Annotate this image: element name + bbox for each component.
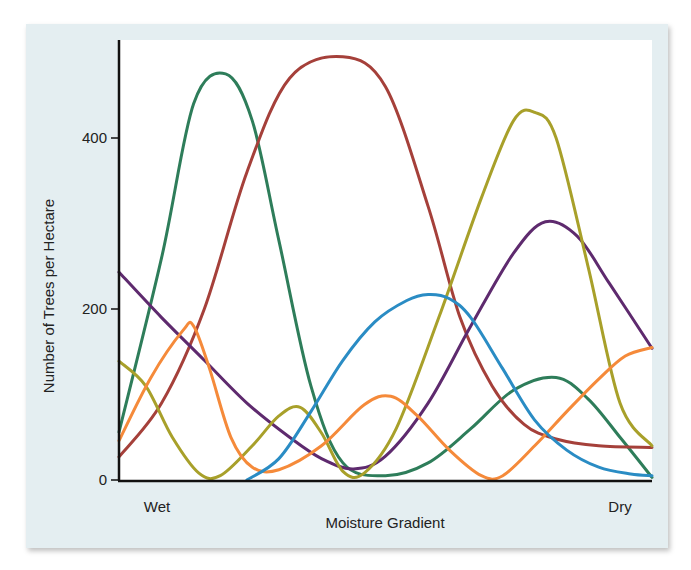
y-tick-label: 200 — [82, 300, 107, 317]
x-tick-wet: Wet — [144, 498, 171, 515]
line-chart: 0200400 Wet Dry Moisture Gradient Number… — [0, 0, 691, 570]
y-axis-label: Number of Trees per Hectare — [40, 199, 57, 393]
x-tick-dry: Dry — [608, 498, 632, 515]
y-tick-label: 0 — [99, 471, 107, 488]
x-axis-label: Moisture Gradient — [325, 514, 445, 531]
y-tick-label: 400 — [82, 129, 107, 146]
y-ticks: 0200400 — [82, 129, 119, 488]
plot-area — [119, 40, 652, 480]
